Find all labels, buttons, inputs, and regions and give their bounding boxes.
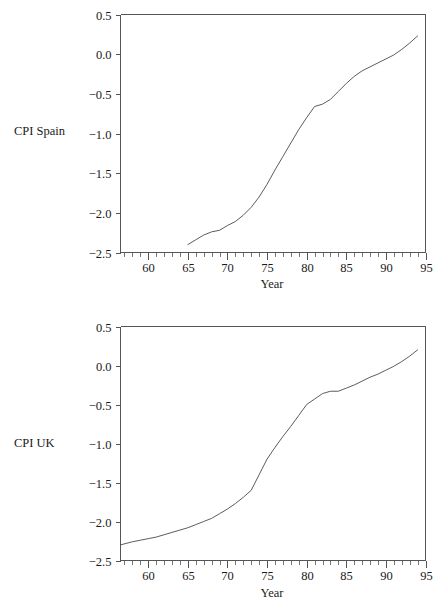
figure-cpi-panels: 0.50.0−0.5−1.0−1.5−2.0−2.5 6065707580859… (0, 0, 440, 611)
x-tick-label: 95 (420, 261, 433, 275)
series-line-cpi-uk (121, 350, 418, 545)
x-tick-label: 70 (221, 569, 234, 583)
x-tick-label: 95 (420, 569, 433, 583)
x-axis-tick-labels-uk: 6065707580859095 (142, 569, 433, 583)
x-tick-label: 70 (221, 261, 234, 275)
x-axis-tick-labels-spain: 6065707580859095 (142, 261, 433, 275)
y-tick-label: −2.5 (89, 247, 112, 261)
y-tick-label: −2.5 (89, 555, 112, 569)
x-tick-label: 75 (261, 569, 274, 583)
x-tick-label: 60 (142, 261, 155, 275)
y-axis-tick-labels-uk: 0.50.0−0.5−1.0−1.5−2.0−2.5 (89, 321, 112, 569)
x-axis-minor-ticks-spain (125, 253, 419, 257)
y-tick-label: 0.0 (96, 360, 112, 374)
x-tick-label: 80 (301, 261, 314, 275)
x-tick-label: 90 (380, 569, 393, 583)
y-axis-ticks-uk (116, 328, 121, 562)
y-axis-ticks-spain (116, 16, 121, 254)
x-tick-label: 85 (340, 261, 353, 275)
x-axis-minor-ticks-uk (125, 561, 419, 565)
x-tick-label: 75 (261, 261, 274, 275)
y-tick-label: −1.0 (89, 128, 112, 142)
axes-frame-spain (121, 15, 426, 253)
x-tick-label: 85 (340, 569, 353, 583)
series-line-cpi-spain (188, 36, 418, 245)
x-tick-label: 65 (182, 569, 195, 583)
y-tick-label: −1.5 (89, 167, 112, 181)
y-tick-label: 0.0 (96, 48, 112, 62)
y-axis-tick-labels-spain: 0.50.0−0.5−1.0−1.5−2.0−2.5 (89, 9, 112, 261)
chart-svg-cpi-spain: 0.50.0−0.5−1.0−1.5−2.0−2.5 6065707580859… (0, 0, 440, 305)
y-tick-label: −1.0 (89, 438, 112, 452)
x-tick-label: 60 (142, 569, 155, 583)
axes-frame-uk (121, 327, 426, 561)
y-tick-label: −1.5 (89, 477, 112, 491)
chart-svg-cpi-uk: 0.50.0−0.5−1.0−1.5−2.0−2.5 6065707580859… (0, 305, 440, 611)
y-tick-label: −2.0 (89, 516, 112, 530)
y-tick-label: −0.5 (89, 88, 112, 102)
data-series-spain (188, 36, 418, 245)
x-tick-label: 80 (301, 569, 314, 583)
y-tick-label: −0.5 (89, 399, 112, 413)
x-tick-label: 65 (182, 261, 195, 275)
x-tick-label: 90 (380, 261, 393, 275)
x-axis-major-ticks-uk (149, 561, 427, 568)
x-axis-major-ticks-spain (149, 253, 427, 260)
chart-panel-cpi-spain: 0.50.0−0.5−1.0−1.5−2.0−2.5 6065707580859… (0, 0, 440, 305)
y-tick-label: −2.0 (89, 207, 112, 221)
y-tick-label: 0.5 (96, 9, 112, 23)
chart-panel-cpi-uk: 0.50.0−0.5−1.0−1.5−2.0−2.5 6065707580859… (0, 305, 440, 611)
y-tick-label: 0.5 (96, 321, 112, 335)
data-series-uk (121, 350, 418, 545)
